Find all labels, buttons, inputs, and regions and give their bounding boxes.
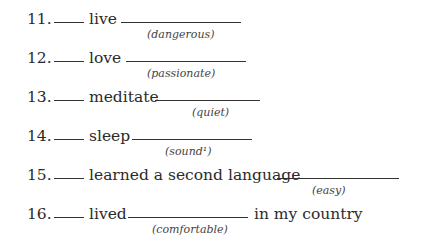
long-answer-blank[interactable] (126, 61, 246, 62)
long-answer-blank[interactable] (121, 22, 241, 23)
item-hint: (dangerous) (147, 28, 214, 41)
item-hint: (quiet) (192, 106, 229, 119)
item-hint: (sound¹) (165, 145, 211, 158)
item-verb: meditate (89, 88, 159, 106)
item-number: 13. (27, 88, 52, 106)
long-answer-blank[interactable] (155, 100, 260, 101)
short-answer-blank[interactable] (54, 178, 84, 179)
long-answer-blank[interactable] (132, 139, 252, 140)
item-number: 12. (27, 49, 52, 67)
long-answer-blank[interactable] (128, 217, 248, 218)
short-answer-blank[interactable] (54, 139, 84, 140)
item-verb: learned a second language (89, 166, 300, 184)
short-answer-blank[interactable] (54, 217, 84, 218)
short-answer-blank[interactable] (54, 61, 84, 62)
item-verb: live (89, 10, 117, 28)
short-answer-blank[interactable] (54, 100, 84, 101)
item-tail: in my country (254, 205, 363, 223)
item-hint: (passionate) (147, 67, 215, 80)
long-answer-blank[interactable] (277, 178, 399, 179)
item-verb: love (89, 49, 121, 67)
item-number: 14. (27, 127, 52, 145)
item-number: 11. (27, 10, 52, 28)
item-number: 15. (27, 166, 52, 184)
item-hint: (easy) (312, 184, 346, 197)
item-hint: (comfortable) (152, 223, 228, 236)
short-answer-blank[interactable] (54, 22, 84, 23)
item-number: 16. (27, 205, 52, 223)
item-verb: sleep (89, 127, 130, 145)
item-verb: lived (89, 205, 127, 223)
